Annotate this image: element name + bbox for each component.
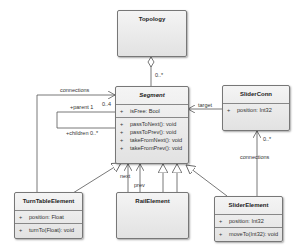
- class-turntable-element[interactable]: TurnTableElement +position: Float +turnT…: [14, 192, 83, 239]
- attributes-section: +isFree: Bool: [116, 104, 188, 117]
- operation: +takeFromNext(): void: [120, 136, 185, 144]
- class-name: SliderElement: [215, 197, 282, 214]
- operations-section: +passToNext(): void +passToPrev(): void …: [116, 117, 188, 154]
- class-topology[interactable]: Topology: [117, 10, 187, 57]
- class-rail-element[interactable]: RailElement: [116, 192, 189, 239]
- self-association-line: [57, 112, 115, 128]
- target-label: target: [198, 102, 212, 108]
- attribute: +position: Int32: [219, 217, 279, 225]
- parent-label: +parent 1: [70, 104, 93, 110]
- operations-section: +turnTo(Float): void: [15, 223, 82, 236]
- operation: +passToNext(): void: [120, 120, 185, 128]
- operations-section: +moveTo(Int32): void: [215, 227, 282, 240]
- attributes-section: +position: Float: [15, 210, 82, 223]
- attribute: +isFree: Bool: [120, 107, 185, 115]
- children-label: +children 0..*: [66, 130, 98, 136]
- segment-multiplicity-label: 0..4: [102, 101, 111, 107]
- next-label: next: [120, 173, 130, 179]
- operation: +turnTo(Float): void: [19, 226, 79, 234]
- operation: +takeFromPrev(): void: [120, 144, 185, 152]
- attributes-section: +position: Int32: [215, 214, 282, 227]
- attribute: +position: Int32: [227, 106, 286, 114]
- class-name: Topology: [118, 11, 186, 28]
- class-name: SliderConn: [223, 86, 289, 103]
- connections-right-label: connections: [240, 154, 269, 160]
- attributes-section: +position: Int32: [223, 103, 289, 116]
- class-slider-element[interactable]: SliderElement +position: Int32 +moveTo(I…: [214, 196, 283, 242]
- class-segment[interactable]: Segment +isFree: Bool +passToNext(): voi…: [115, 86, 189, 164]
- class-name: RailElement: [117, 193, 188, 210]
- connections-left-label: connections: [60, 87, 89, 93]
- topology-multiplicity-label: 0..*: [155, 72, 163, 78]
- attribute: +position: Float: [19, 213, 79, 221]
- class-sliderconn[interactable]: SliderConn +position: Int32: [222, 85, 290, 131]
- turntable-generalization: [73, 163, 121, 193]
- prev-label: prev: [134, 182, 145, 188]
- operation: +moveTo(Int32): void: [219, 230, 279, 238]
- sliderconn-multiplicity-label: 0..*: [263, 136, 271, 142]
- class-name: Segment: [116, 87, 188, 104]
- aggregation-diamond-icon: [148, 57, 154, 67]
- class-name: TurnTableElement: [15, 193, 82, 210]
- operation: +passToPrev(): void: [120, 128, 185, 136]
- slider-generalization: [186, 165, 227, 196]
